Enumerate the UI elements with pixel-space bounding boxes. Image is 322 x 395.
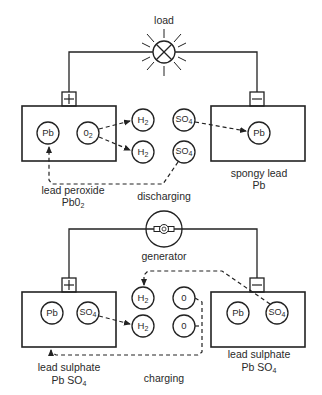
pb-label: Pb	[239, 179, 279, 191]
positive-plate-bottom	[22, 292, 116, 347]
pbo2-label: Pb02	[48, 196, 98, 209]
atom-pb: Pb	[37, 128, 59, 138]
generator-label: generator	[136, 250, 192, 262]
atom-so4: SO4	[265, 308, 289, 318]
wire-negative-top	[175, 52, 257, 92]
wire-positive-top	[69, 52, 153, 92]
spongy-lead-label: spongy lead	[214, 167, 304, 179]
charging-caption: charging	[134, 372, 194, 384]
lead-sulphate-right-label: lead sulphate	[214, 348, 304, 360]
lead-sulphate-left-label: lead sulphate	[24, 361, 114, 373]
atom-so4: SO4	[76, 308, 100, 318]
atom-so4: SO4	[172, 147, 196, 157]
atom-so4: SO4	[172, 115, 196, 125]
atom-h2: H2	[132, 293, 154, 304]
atom-o: 0	[173, 321, 195, 331]
generator-icon	[146, 211, 182, 247]
atom-pb: Pb	[248, 128, 270, 138]
discharging-caption: discharging	[130, 190, 198, 202]
atom-pb: Pb	[227, 308, 249, 318]
atom-o2: 02	[77, 128, 99, 139]
negative-plate-bottom	[211, 292, 305, 347]
atom-h2: H2	[132, 321, 154, 332]
wire-positive-bottom	[69, 229, 146, 278]
lead-peroxide-label: lead peroxide	[28, 184, 118, 196]
atom-o: 0	[173, 293, 195, 303]
atom-h2: H2	[132, 147, 154, 158]
pbso4-right-label: Pb SO4	[234, 361, 284, 374]
atom-pb: Pb	[41, 308, 63, 318]
pbso4-left-label: Pb SO4	[44, 374, 94, 387]
load-label: load	[148, 14, 180, 26]
atom-h2: H2	[132, 115, 154, 126]
